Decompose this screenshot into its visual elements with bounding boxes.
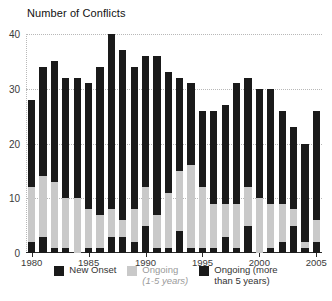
bar-segment-1989-series-0 bbox=[131, 242, 138, 253]
bar-segment-1988-series-0 bbox=[119, 237, 126, 253]
bar-segment-1996-series-0 bbox=[210, 248, 217, 253]
bar-1986 bbox=[96, 67, 103, 253]
y-tick-10: 10 bbox=[0, 193, 20, 204]
bar-segment-1980-series-0 bbox=[28, 242, 35, 253]
plot-area: 010203040 198019851990199520002005 bbox=[26, 30, 322, 253]
bar-segment-2001-series-0 bbox=[267, 248, 274, 253]
bar-segment-1982-series-2 bbox=[51, 61, 58, 181]
bar-2000 bbox=[256, 89, 263, 253]
bar-segment-1998-series-2 bbox=[233, 83, 240, 203]
bar-2002 bbox=[279, 111, 286, 253]
bar-1989 bbox=[131, 67, 138, 253]
bar-segment-1983-series-1 bbox=[62, 198, 69, 247]
bar-segment-1983-series-0 bbox=[62, 248, 69, 253]
gridline-40 bbox=[26, 34, 322, 35]
bar-segment-2003-series-1 bbox=[290, 209, 297, 225]
bar-segment-2003-series-0 bbox=[290, 226, 297, 253]
bar-segment-1990-series-2 bbox=[142, 56, 149, 187]
bar-1983 bbox=[62, 78, 69, 253]
bar-1994 bbox=[187, 83, 194, 253]
bar-segment-1993-series-1 bbox=[176, 171, 183, 231]
legend-swatch-icon-2 bbox=[199, 266, 209, 276]
bar-segment-1987-series-2 bbox=[108, 34, 115, 209]
legend-item-1: Ongoing(1-5 years) bbox=[127, 264, 188, 286]
y-tick-0: 0 bbox=[0, 248, 20, 259]
bar-1988 bbox=[119, 50, 126, 253]
bar-1985 bbox=[85, 83, 92, 253]
bar-1999 bbox=[244, 78, 251, 253]
bar-segment-2005-series-1 bbox=[313, 220, 320, 242]
bar-segment-2003-series-2 bbox=[290, 127, 297, 209]
bar-segment-1991-series-0 bbox=[153, 248, 160, 253]
bar-segment-1994-series-1 bbox=[187, 165, 194, 247]
bar-1980 bbox=[28, 100, 35, 253]
bar-segment-1983-series-2 bbox=[62, 78, 69, 198]
bar-segment-1999-series-0 bbox=[244, 226, 251, 253]
bar-segment-1997-series-2 bbox=[222, 105, 229, 204]
bar-1987 bbox=[108, 34, 115, 253]
legend-item-0: New Onset bbox=[54, 264, 116, 276]
bar-segment-1987-series-1 bbox=[108, 209, 115, 236]
bar-segment-1994-series-0 bbox=[187, 248, 194, 253]
bar-segment-1990-series-1 bbox=[142, 187, 149, 225]
bar-segment-2002-series-2 bbox=[279, 111, 286, 204]
bar-segment-2000-series-1 bbox=[256, 198, 263, 253]
bar-segment-1984-series-1 bbox=[74, 198, 81, 253]
legend-swatch-icon-1 bbox=[127, 266, 137, 276]
bar-segment-2005-series-0 bbox=[313, 242, 320, 253]
bar-segment-1988-series-2 bbox=[119, 50, 126, 220]
bar-segment-2004-series-0 bbox=[301, 248, 308, 253]
bar-2003 bbox=[290, 127, 297, 253]
bar-segment-1982-series-1 bbox=[51, 182, 58, 248]
bar-segment-1990-series-0 bbox=[142, 226, 149, 253]
chart-title: Number of Conflicts bbox=[27, 7, 126, 19]
gridline-30 bbox=[26, 89, 322, 90]
chart-legend: New OnsetOngoing(1-5 years)Ongoing (more… bbox=[0, 264, 332, 301]
bar-segment-1989-series-2 bbox=[131, 67, 138, 209]
bar-segment-1992-series-1 bbox=[165, 193, 172, 248]
bar-segment-2004-series-1 bbox=[301, 242, 308, 247]
bar-segment-1992-series-0 bbox=[165, 248, 172, 253]
legend-swatch-icon-0 bbox=[54, 266, 64, 276]
legend-item-2: Ongoing (morethan 5 years) bbox=[199, 264, 277, 286]
bar-segment-2001-series-1 bbox=[267, 204, 274, 248]
bar-2004 bbox=[301, 144, 308, 254]
bar-segment-1986-series-0 bbox=[96, 248, 103, 253]
y-tick-40: 40 bbox=[0, 29, 20, 40]
bar-segment-2002-series-0 bbox=[279, 242, 286, 253]
legend-label-0: New Onset bbox=[69, 264, 116, 275]
bar-segment-1996-series-1 bbox=[210, 204, 217, 248]
bar-segment-1996-series-2 bbox=[210, 111, 217, 204]
bar-segment-1980-series-1 bbox=[28, 187, 35, 242]
bar-segment-1993-series-0 bbox=[176, 231, 183, 253]
bar-1997 bbox=[222, 105, 229, 253]
bar-segment-1982-series-0 bbox=[51, 248, 58, 253]
bar-segment-1981-series-1 bbox=[39, 176, 46, 236]
bar-segment-1991-series-1 bbox=[153, 215, 160, 248]
bar-segment-1988-series-1 bbox=[119, 220, 126, 236]
bar-segment-1989-series-1 bbox=[131, 209, 138, 242]
bar-1981 bbox=[39, 67, 46, 253]
bar-segment-1997-series-1 bbox=[222, 204, 229, 237]
y-tick-20: 20 bbox=[0, 138, 20, 149]
bar-segment-1998-series-1 bbox=[233, 204, 240, 248]
y-tick-30: 30 bbox=[0, 83, 20, 94]
bar-segment-1987-series-0 bbox=[108, 237, 115, 253]
bar-1990 bbox=[142, 56, 149, 253]
bar-1982 bbox=[51, 61, 58, 253]
bar-2001 bbox=[267, 89, 274, 253]
bar-segment-1985-series-2 bbox=[85, 83, 92, 209]
bar-1984 bbox=[74, 78, 81, 253]
bar-segment-2000-series-2 bbox=[256, 89, 263, 199]
bar-segment-1999-series-1 bbox=[244, 187, 251, 225]
bar-segment-2002-series-1 bbox=[279, 204, 286, 242]
bar-1991 bbox=[153, 56, 160, 253]
bar-segment-1986-series-2 bbox=[96, 67, 103, 215]
bar-segment-2001-series-2 bbox=[267, 89, 274, 204]
conflicts-chart: Number of Conflicts 010203040 1980198519… bbox=[0, 0, 332, 301]
bar-segment-1997-series-0 bbox=[222, 237, 229, 253]
bar-1996 bbox=[210, 111, 217, 253]
bar-1998 bbox=[233, 83, 240, 253]
bar-segment-1992-series-2 bbox=[165, 72, 172, 192]
plot-inner: 010203040 198019851990199520002005 bbox=[26, 34, 322, 253]
